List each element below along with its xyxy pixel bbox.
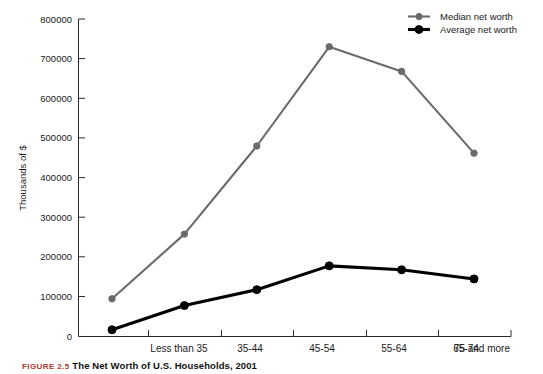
x-category-label: 35-44 (237, 343, 263, 354)
data-point-average (253, 286, 261, 294)
legend-item-median[interactable]: Median net worth (408, 11, 513, 22)
legend-label-average: Average net worth (440, 24, 517, 35)
y-tick-label: 100000 (40, 291, 72, 302)
data-point-median (398, 68, 404, 74)
data-point-average (398, 266, 406, 274)
median-net-worth-points (109, 44, 477, 302)
y-axis-ticks (79, 19, 86, 297)
y-tick-label: 500000 (40, 132, 72, 143)
series-median-net-worth (109, 44, 477, 302)
data-point-median (181, 231, 187, 237)
data-point-median (254, 143, 260, 149)
y-tick-label: 0 (67, 331, 72, 342)
data-point-average (325, 262, 333, 270)
median-net-worth-line (112, 47, 474, 299)
data-point-average (108, 326, 116, 334)
x-category-label: Less than 35 (150, 343, 208, 354)
legend-item-average[interactable]: Average net worth (408, 24, 517, 35)
data-point-average (180, 302, 188, 310)
legend-label-median: Median net worth (440, 11, 513, 22)
x-axis-ticks (149, 330, 512, 337)
data-point-median (471, 150, 477, 156)
x-category-label: 75 and more (454, 343, 511, 354)
figure-caption-text: The Net Worth of U.S. Households, 2001 (72, 360, 257, 371)
average-net-worth-line (112, 266, 474, 330)
figure-container: 800000 700000 600000 500000 400000 30000… (0, 0, 543, 374)
figure-caption: FIGURE 2.5 The Net Worth of U.S. Househo… (22, 360, 257, 371)
x-category-label: 55-64 (381, 343, 407, 354)
data-point-average (470, 275, 478, 283)
y-tick-label: 300000 (40, 212, 72, 223)
data-point-median (109, 296, 115, 302)
data-point-median (326, 44, 332, 50)
x-category-label: 45-54 (309, 343, 335, 354)
x-axis-category-labels: Less than 35 35-44 45-54 55-64 65-74 75 … (150, 343, 510, 354)
chart-legend: Median net worth Average net worth (408, 11, 517, 35)
y-tick-label: 600000 (40, 93, 72, 104)
y-tick-label: 800000 (40, 14, 72, 25)
legend-marker-average-icon (415, 26, 423, 34)
y-tick-label: 200000 (40, 251, 72, 262)
y-tick-label: 400000 (40, 172, 72, 183)
series-average-net-worth (108, 262, 478, 334)
y-axis-tick-labels: 800000 700000 600000 500000 400000 30000… (40, 14, 72, 342)
figure-caption-number: FIGURE 2.5 (22, 362, 70, 371)
net-worth-line-chart: 800000 700000 600000 500000 400000 30000… (0, 0, 543, 360)
y-axis-title: Thousands of $ (17, 145, 28, 211)
legend-marker-median-icon (416, 13, 422, 19)
y-tick-label: 700000 (40, 53, 72, 64)
